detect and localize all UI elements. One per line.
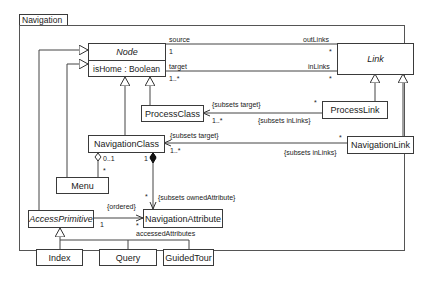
role-accessed-attributes: accessedAttributes [136,230,195,238]
role-inlinks: inLinks [308,63,330,71]
mult-owner: 1 [144,155,148,163]
constraint-owned-attribute: {subsets ownedAttribute} [158,194,235,202]
mult-target: 1..* [169,75,180,83]
composition-diamond-icon [150,153,156,161]
mult-owned-attr: * [145,193,148,201]
mult-inlinks: * [329,75,332,83]
constraint-processclass-target: {subsets target} [212,101,261,109]
class-query[interactable]: Query [99,249,157,266]
mult-menu: * [103,167,106,175]
class-accessprimitive[interactable]: AccessPrimitive [28,210,94,228]
gen-menu-node [67,64,88,177]
aggregation-diamond-icon [95,153,101,161]
mult-menu-navclass: 0..1 [103,155,115,163]
constraint-navclass-target: {subsets target} [170,132,219,140]
mult-source: 1 [169,48,173,56]
class-processlink[interactable]: ProcessLink [322,101,388,119]
mult-accessed: * [136,222,139,230]
class-node[interactable]: Node isHome : Boolean [88,43,166,77]
class-navigationlink[interactable]: NavigationLink [347,136,414,154]
mult-processlink: * [314,99,317,107]
class-link[interactable]: Link [337,43,414,75]
class-navigationclass[interactable]: NavigationClass [88,135,165,153]
constraint-ordered: {ordered} [107,203,136,211]
class-navigationattribute[interactable]: NavigationAttribute [143,209,223,228]
class-index[interactable]: Index [36,249,83,266]
class-node-name: Node [89,44,165,61]
class-node-attribute: isHome : Boolean [89,61,165,77]
mult-navclass: 1..* [170,147,181,155]
role-target: target [169,63,187,71]
uml-class-diagram: Navigation [0,0,442,293]
gen-tree-bottom [60,240,189,249]
mult-processclass: 1..* [212,117,223,125]
class-guidedtour[interactable]: GuidedTour [163,249,214,266]
class-processclass[interactable]: ProcessClass [141,105,204,122]
mult-accessprim: 1 [100,221,104,229]
constraint-navlink-inlinks: {subsets inLinks} [284,149,337,157]
mult-outlinks: * [329,48,332,56]
class-menu[interactable]: Menu [56,177,109,194]
mult-navlink: * [339,134,342,142]
constraint-processlink-inlinks: {subsets inLinks} [258,117,311,125]
role-outlinks: outLinks [303,36,329,44]
role-source: source [169,36,190,44]
